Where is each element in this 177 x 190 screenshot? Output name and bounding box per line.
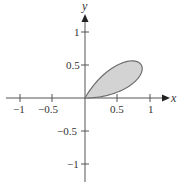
x-tick-label: −1 <box>13 103 25 115</box>
x-tick-label: 0.5 <box>110 103 124 115</box>
y-tick-label: −0.5 <box>57 125 77 137</box>
x-tick-label: 1 <box>148 103 154 115</box>
x-axis-label: x <box>170 91 177 105</box>
polar-plot: x y −1 −0.5 0.5 1 1 0.5 −0.5 −1 <box>0 0 177 190</box>
y-axis-label: y <box>81 0 88 13</box>
y-tick-label: 1 <box>74 26 80 38</box>
y-axis-arrow-icon <box>82 14 89 22</box>
y-tick-label: −1 <box>67 158 79 170</box>
y-tick-label: 0.5 <box>66 59 80 71</box>
x-axis-arrow-icon <box>162 95 170 102</box>
petal-region <box>85 61 142 98</box>
x-tick-label: −0.5 <box>38 103 58 115</box>
